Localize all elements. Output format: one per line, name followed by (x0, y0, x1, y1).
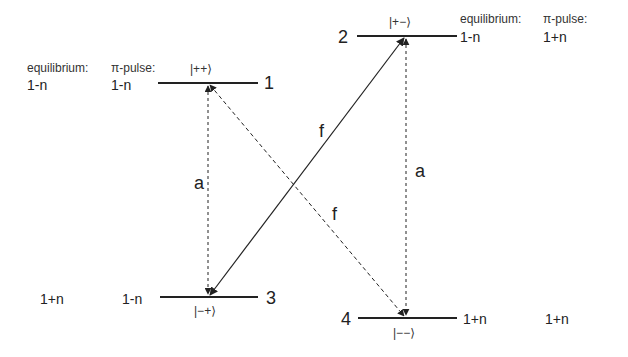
level-3-equilibrium: 1+n (40, 292, 64, 306)
level-4-number: 4 (341, 310, 351, 328)
left-pi-pulse-header: π-pulse: (111, 62, 155, 74)
transition-f-1-4 (210, 85, 404, 316)
level-4-pi-pulse: 1+n (545, 312, 569, 326)
level-3-ket: |−+⟩ (194, 305, 216, 317)
level-2-ket: |+−⟩ (389, 16, 411, 28)
energy-level-diagram (0, 0, 628, 357)
level-1-number: 1 (264, 74, 274, 92)
transition-f-1-4-label: f (332, 205, 337, 223)
level-2-equilibrium: 1-n (460, 30, 480, 44)
level-2-pi-pulse: 1+n (543, 30, 567, 44)
transition-f-3-2-label: f (319, 122, 324, 140)
level-1-pi-pulse: 1-n (111, 78, 131, 92)
right-equilibrium-header: equilibrium: (460, 13, 521, 25)
transition-a-1-3-label: a (194, 174, 204, 192)
level-1-ket: |++⟩ (190, 63, 212, 75)
level-3-pi-pulse: 1-n (122, 292, 142, 306)
level-4-ket: |−−⟩ (393, 327, 415, 339)
left-equilibrium-header: equilibrium: (27, 62, 88, 74)
level-2-number: 2 (338, 28, 348, 46)
transition-f-3-2 (210, 38, 404, 295)
level-1-equilibrium: 1-n (27, 78, 47, 92)
transition-a-2-4-label: a (415, 162, 425, 180)
right-pi-pulse-header: π-pulse: (543, 13, 587, 25)
level-3-number: 3 (266, 289, 276, 307)
level-4-equilibrium: 1+n (463, 312, 487, 326)
